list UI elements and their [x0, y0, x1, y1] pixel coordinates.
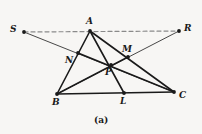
figure-caption: (a) — [94, 116, 108, 125]
vertex-label-a: A — [86, 17, 93, 26]
segment-layer — [24, 31, 179, 94]
dashed-line-SAR — [24, 31, 179, 32]
ray-R-to-B — [57, 31, 179, 94]
vertex-dot-a — [88, 29, 92, 33]
vertex-dot-s — [22, 30, 26, 34]
vertex-label-c: C — [179, 91, 186, 100]
vertex-label-b: B — [52, 98, 60, 107]
vertex-dot-b — [55, 92, 59, 96]
geometry-figure: SARNMPBLC (a) — [0, 0, 202, 134]
vertex-label-r: R — [184, 24, 191, 33]
vertex-label-m: M — [122, 45, 132, 54]
vertex-label-s: S — [10, 25, 17, 34]
vertex-dot-r — [177, 29, 181, 33]
ray-S-to-C — [24, 32, 174, 92]
vertex-label-n: N — [65, 56, 73, 65]
geometry-canvas — [0, 0, 202, 134]
vertex-label-p: P — [105, 68, 112, 77]
segment-BC — [57, 92, 174, 94]
vertex-label-l: L — [120, 97, 126, 106]
vertex-dot-l — [122, 91, 126, 95]
vertex-dot-m — [126, 55, 130, 59]
vertex-dot-c — [172, 90, 176, 94]
vertex-dot-n — [76, 51, 80, 55]
